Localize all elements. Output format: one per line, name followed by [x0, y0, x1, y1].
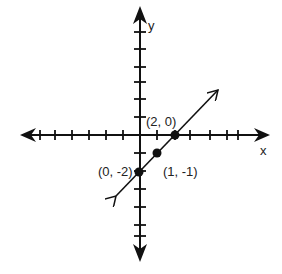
y-axis-label: y — [148, 18, 155, 33]
x-axis — [20, 128, 270, 142]
point-label-0-neg2: (0, -2) — [98, 164, 133, 179]
graph-svg: y x (2, 0) (1, -1) (0, -2) — [0, 0, 282, 274]
point-label-1-neg1: (1, -1) — [163, 164, 198, 179]
point-1-neg1 — [153, 149, 162, 158]
graphed-line — [116, 90, 218, 196]
point-2-0 — [171, 131, 180, 140]
x-axis-label: x — [260, 143, 267, 158]
point-label-2-0: (2, 0) — [146, 114, 176, 129]
coordinate-plane: y x (2, 0) (1, -1) (0, -2) — [0, 0, 282, 274]
point-0-neg2 — [135, 168, 144, 177]
